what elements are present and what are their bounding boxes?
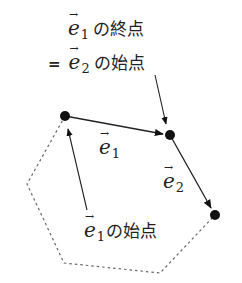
- point-p1: [60, 111, 70, 121]
- vector-subscript: 2: [176, 180, 184, 195]
- label-text: の始点: [106, 221, 157, 241]
- label-e1-end: →e1の終点: [68, 18, 144, 41]
- label-e1-start: →e1の始点: [84, 220, 157, 243]
- pointer-arrow-e1-end: [155, 75, 166, 124]
- vector-e1-arrow: [65, 116, 163, 134]
- vector-subscript: 1: [112, 146, 120, 161]
- equals-sign: =: [48, 55, 61, 73]
- vector-e1-symbol: →e1: [68, 18, 89, 41]
- label-text: の終点: [93, 19, 144, 39]
- vector-arrow-glyph: →: [164, 162, 173, 173]
- vector-arrow-glyph: →: [69, 9, 78, 20]
- vector-subscript: 1: [81, 27, 89, 42]
- label-vector-e2: →e2: [163, 171, 184, 194]
- label-vector-e1: →e1: [99, 137, 120, 160]
- vector-arrow-glyph: →: [85, 211, 94, 222]
- vector-e2-symbol: →e2: [163, 171, 184, 194]
- dashed-closing-polygon: [27, 116, 215, 273]
- vector-e1-symbol: →e1: [84, 220, 105, 243]
- pointer-arrow-e1-start: [68, 129, 87, 210]
- vector-subscript: 1: [97, 229, 105, 244]
- vector-subscript: 2: [81, 61, 89, 76]
- label-text: の始点: [94, 53, 145, 73]
- point-p3: [210, 210, 220, 220]
- label-e2-start: =→e2の始点: [48, 52, 145, 75]
- vector-e2-symbol: →e2: [69, 52, 90, 75]
- point-p2: [165, 130, 175, 140]
- vector-arrow-glyph: →: [70, 43, 79, 54]
- vector-arrow-glyph: →: [100, 128, 109, 139]
- vector-e1-symbol: →e1: [99, 137, 120, 160]
